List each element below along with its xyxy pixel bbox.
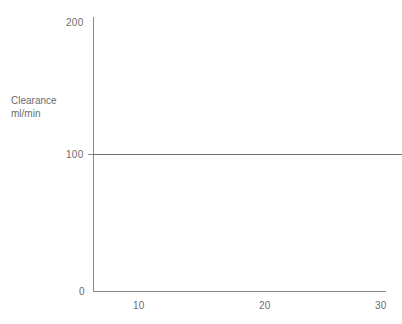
y-axis-label-200: 200 xyxy=(66,17,84,28)
y-axis-title-line-1: Clearance xyxy=(11,94,57,107)
x-axis-label-30: 30 xyxy=(375,300,387,311)
y-axis-title-line-2: ml/min xyxy=(11,107,57,120)
x-axis-label-20: 20 xyxy=(259,300,271,311)
x-axis-label-10: 10 xyxy=(133,300,145,311)
y-axis-label-0: 0 xyxy=(79,286,85,297)
y-axis-title: Clearance ml/min xyxy=(11,94,57,120)
chart-canvas: 200 100 0 10 20 30 Clearance ml/min xyxy=(0,0,402,324)
y-axis-label-100: 100 xyxy=(66,149,84,160)
x-axis-line xyxy=(93,291,386,292)
clearance-series-line xyxy=(93,154,402,155)
